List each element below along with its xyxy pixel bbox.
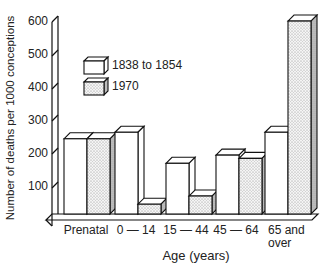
cat-0-14: 0 — 14 [117, 223, 156, 237]
tick-200: 200 [28, 146, 48, 160]
cat-65-over-line2: over [268, 236, 291, 250]
legend-item-1970: 1970 [84, 78, 139, 95]
tick-600: 600 [28, 14, 48, 28]
bars [64, 15, 317, 214]
bar-1970-4 [288, 15, 317, 214]
legend-label-1838: 1838 to 1854 [112, 58, 182, 72]
bar-1970-2 [189, 190, 218, 214]
chart: Number of deaths per 1000 conceptions 10… [0, 0, 326, 265]
tick-500: 500 [28, 47, 48, 61]
bar-1970-1 [138, 198, 167, 214]
bar-1970-0 [87, 133, 116, 214]
y-axis-title: Number of deaths per 1000 conceptions [4, 15, 16, 220]
cat-prenatal: Prenatal [64, 223, 109, 237]
tick-400: 400 [28, 80, 48, 94]
tick-100: 100 [28, 179, 48, 193]
tick-300: 300 [28, 113, 48, 127]
cat-65-over-line1: 65 and [268, 223, 305, 237]
y-tick-labels: 100 200 300 400 500 600 [28, 14, 48, 193]
y-axis [52, 16, 58, 220]
legend: 1838 to 1854 1970 [84, 57, 182, 95]
x-axis-title: Age (years) [162, 248, 229, 263]
x-tick-labels: Prenatal 0 — 14 15 — 44 45 — 64 65 and o… [64, 223, 305, 250]
bar-1970-3 [239, 152, 268, 214]
legend-label-1970: 1970 [112, 79, 139, 93]
bar-1838-1 [115, 126, 144, 214]
cat-45-64: 45 — 64 [213, 223, 259, 237]
cat-15-44: 15 — 44 [163, 223, 209, 237]
legend-item-1838: 1838 to 1854 [84, 57, 182, 74]
